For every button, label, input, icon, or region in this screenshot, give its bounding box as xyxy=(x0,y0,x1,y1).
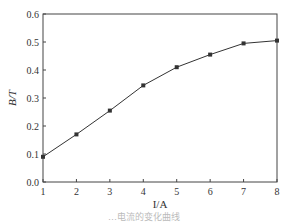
y-tick-label: 0.1 xyxy=(27,149,40,160)
x-tick-label: 8 xyxy=(275,186,280,197)
x-tick-label: 7 xyxy=(241,186,246,197)
plot-frame xyxy=(43,14,277,182)
y-tick-label: 0.2 xyxy=(27,121,40,132)
y-tick-label: 0.3 xyxy=(27,93,40,104)
data-series xyxy=(41,39,279,159)
x-tick-label: 4 xyxy=(141,186,146,197)
x-tick-label: 2 xyxy=(74,186,79,197)
y-axis-label: B/T xyxy=(6,89,18,106)
data-point-marker xyxy=(74,132,78,136)
y-tick-label: 0.6 xyxy=(27,9,40,20)
line-chart: 123456780.00.10.20.30.40.50.6 B/T I/A xyxy=(0,0,288,224)
data-point-marker xyxy=(242,41,246,45)
data-point-marker xyxy=(41,155,45,159)
y-tick-label: 0.0 xyxy=(27,177,40,188)
x-tick-label: 1 xyxy=(41,186,46,197)
x-tick-label: 6 xyxy=(208,186,213,197)
figure-caption: …电流的变化曲线 xyxy=(0,210,288,223)
series-line xyxy=(43,41,277,157)
data-point-marker xyxy=(208,53,212,57)
x-axis-label: I/A xyxy=(153,198,168,210)
plot-axes: 123456780.00.10.20.30.40.50.6 xyxy=(27,9,280,198)
x-tick-label: 5 xyxy=(174,186,179,197)
x-tick-label: 3 xyxy=(107,186,112,197)
data-point-marker xyxy=(175,65,179,69)
data-point-marker xyxy=(108,109,112,113)
y-tick-label: 0.4 xyxy=(27,65,40,76)
data-point-marker xyxy=(141,83,145,87)
data-point-marker xyxy=(275,39,279,43)
y-tick-label: 0.5 xyxy=(27,37,40,48)
